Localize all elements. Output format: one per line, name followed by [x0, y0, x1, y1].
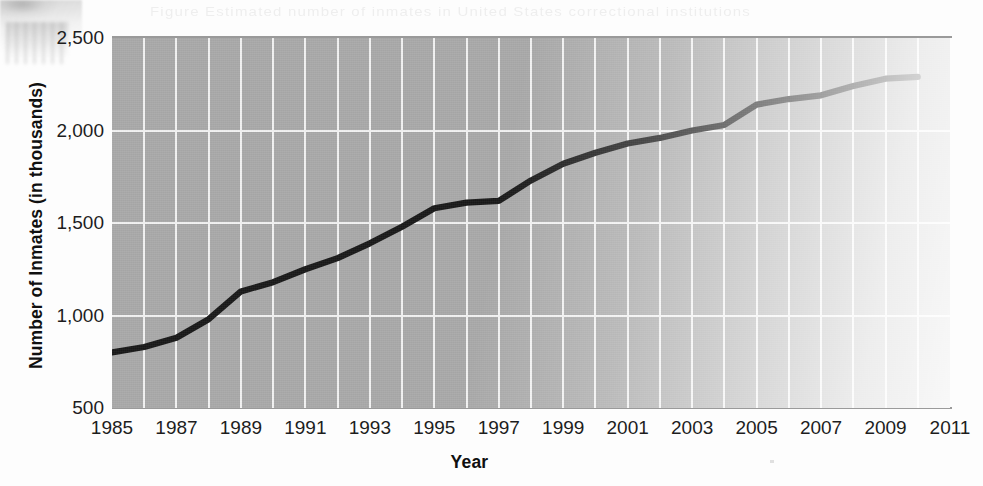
x-tick-label: 2011 — [915, 418, 983, 437]
x-tick-label: 1987 — [141, 418, 211, 437]
x-tick-label: 2001 — [593, 418, 663, 437]
x-tick-label: 2007 — [786, 418, 856, 437]
y-tick-label: 2,500 — [34, 28, 104, 47]
x-tick-label: 1989 — [206, 418, 276, 437]
x-tick-label: 1991 — [270, 418, 340, 437]
x-tick-label: 2003 — [657, 418, 727, 437]
x-tick-label: 2005 — [722, 418, 792, 437]
x-axis-title: Year — [0, 452, 983, 473]
y-axis-title-host: Number of Inmates (in thousands) — [6, 0, 36, 486]
y-axis-title: Number of Inmates (in thousands) — [26, 46, 47, 406]
line-chart: 2,5002,0001,5001,000500 1985198719891991… — [0, 0, 983, 486]
x-tick-label: 1993 — [335, 418, 405, 437]
x-axis-title-text: Year — [451, 452, 489, 473]
x-tick-label: 1997 — [464, 418, 534, 437]
x-axis-tick-labels: 1985198719891991199319951997199920012003… — [0, 418, 983, 444]
series-inmates — [112, 38, 950, 408]
x-tick-label: 1999 — [528, 418, 598, 437]
x-tick-label: 2009 — [851, 418, 921, 437]
x-tick-label: 1985 — [77, 418, 147, 437]
plot-area — [112, 38, 950, 408]
x-tick-label: 1995 — [399, 418, 469, 437]
